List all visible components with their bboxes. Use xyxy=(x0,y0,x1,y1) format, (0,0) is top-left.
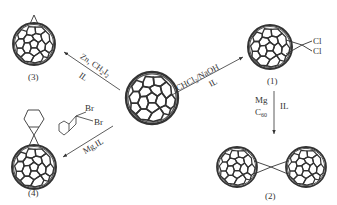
chlorine-label-2: Cl xyxy=(313,46,322,56)
c60-center-molecule xyxy=(126,72,178,124)
compound-4-label: (4) xyxy=(28,188,39,198)
reagent-mg: Mg xyxy=(255,95,268,105)
compound-4-molecule xyxy=(12,110,56,189)
compound-3-label: (3) xyxy=(28,72,39,82)
compound-2-molecule xyxy=(217,147,326,187)
chlorine-label-1: Cl xyxy=(313,36,322,46)
compound-1-molecule xyxy=(248,25,312,69)
compound-3-molecule xyxy=(13,15,55,65)
reagent-c60: C60 xyxy=(255,107,267,120)
compound-1-label: (1) xyxy=(267,76,278,86)
compound-2-label: (2) xyxy=(265,191,276,201)
bromine-label-2: Br xyxy=(94,117,103,127)
reagent-il-2: IL xyxy=(280,101,289,111)
dibromo-reagent-structure xyxy=(59,112,93,135)
bromine-label-1: Br xyxy=(85,103,94,113)
